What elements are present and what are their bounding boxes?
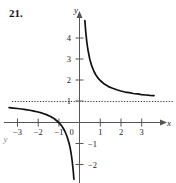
y-tick-label-4: 4 [67,33,72,43]
graph-svg: −3 −2 −1 0 1 2 3 4 3 2 1 −1 −2 y x y [0,0,176,183]
x-tick-label-0: 0 [69,127,73,137]
curve-left-branch [9,108,74,180]
y-tick-label--1: −1 [88,139,97,149]
x-axis-label: x [166,118,171,128]
y-tick-label-3: 3 [67,54,71,64]
x-tick-label--3: −3 [13,127,22,137]
y-tick-label--2: −2 [88,160,97,170]
y-tick-label-2: 2 [67,75,71,85]
stray-margin-mark: y [3,134,8,144]
x-tick-label-3: 3 [140,127,144,137]
x-tick-label-1: 1 [98,127,102,137]
x-tick-label-2: 2 [119,127,123,137]
figure-container: 21. −3 −2 −1 0 1 2 3 4 3 2 [0,0,176,183]
curve-right-branch [85,21,154,96]
x-axis-arrow [160,120,167,126]
y-tick-label-1: 1 [67,96,71,106]
x-tick-label--1: −1 [54,127,63,137]
y-axis-label: y [73,5,78,15]
x-tick-label--2: −2 [34,127,43,137]
